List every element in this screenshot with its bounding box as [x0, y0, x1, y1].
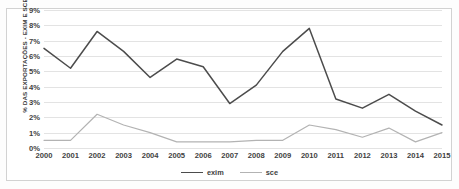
legend-swatch-sce — [240, 172, 262, 173]
y-axis-tick-label: 6% — [14, 52, 40, 61]
y-axis-tick-label: 4% — [14, 82, 40, 91]
series-lines — [44, 10, 442, 148]
x-axis-tick-label: 2015 — [422, 151, 459, 160]
y-axis-tick-label: 8% — [14, 21, 40, 30]
y-axis-tick-label: 5% — [14, 67, 40, 76]
legend-item-sce[interactable]: sce — [240, 168, 278, 177]
y-axis-tick-labels: 0%1%2%3%4%5%6%7%8%9% — [14, 10, 40, 148]
y-axis-tick-label: 2% — [14, 113, 40, 122]
legend-swatch-exim — [181, 172, 203, 173]
series-line-sce — [44, 114, 442, 142]
legend-item-exim[interactable]: exim — [181, 168, 224, 177]
legend-label-exim: exim — [207, 168, 224, 177]
plot-area — [44, 10, 442, 148]
y-axis-tick-label: 7% — [14, 36, 40, 45]
series-line-exim — [44, 28, 442, 125]
y-axis-tick-label: 3% — [14, 98, 40, 107]
x-axis-tick-labels: 2000200120022003200420052006200720082009… — [44, 151, 442, 165]
chart-container: % DAS EXPORTAÇÕES - EXIM E SCE 0%1%2%3%4… — [0, 0, 459, 189]
y-axis-tick-label: 9% — [14, 6, 40, 15]
y-axis-tick-label: 1% — [14, 128, 40, 137]
legend-label-sce: sce — [266, 168, 278, 177]
gridline — [44, 148, 442, 149]
chart-legend: eximsce — [0, 168, 459, 177]
